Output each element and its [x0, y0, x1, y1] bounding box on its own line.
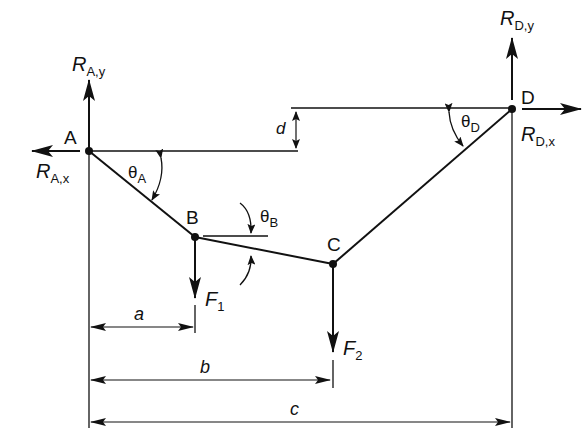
dimension-d-label: d — [276, 119, 286, 138]
reaction-d-y-label: RD,y — [500, 7, 534, 33]
point-a-label: A — [64, 127, 77, 148]
reaction-a-x-label: RA,x — [36, 160, 70, 186]
angle-b-arc-lower — [240, 256, 251, 285]
point-d-label: D — [521, 87, 535, 108]
segment-cd — [333, 109, 512, 264]
angle-b-arc-upper — [240, 203, 251, 233]
segment-bc — [195, 237, 333, 264]
joint-d — [508, 105, 516, 113]
reaction-a-y-label: RA,y — [72, 53, 106, 79]
angle-d-label: θD — [461, 112, 480, 135]
angle-a-label: θA — [128, 163, 146, 186]
joint-a — [85, 147, 93, 155]
joint-c — [329, 260, 337, 268]
cable — [89, 109, 512, 264]
joints — [85, 105, 516, 268]
point-b-label: B — [186, 207, 199, 228]
dimension-c-label: c — [290, 399, 299, 419]
force-f2-label: F2 — [343, 337, 362, 363]
segment-ab — [89, 151, 195, 237]
dimension-lines — [91, 327, 510, 422]
reaction-arrows — [32, 38, 581, 151]
point-c-label: C — [327, 234, 341, 255]
joint-b — [191, 233, 199, 241]
angle-a-arc — [152, 158, 162, 200]
dimension-b-label: b — [200, 357, 210, 377]
force-f1-label: F1 — [205, 288, 224, 314]
reaction-d-x-label: RD,x — [521, 123, 555, 149]
cable-structure-diagram: d a b c A B C D RA,y — [0, 0, 587, 444]
angle-b-label: θB — [260, 207, 278, 230]
dimension-a-label: a — [134, 304, 144, 324]
